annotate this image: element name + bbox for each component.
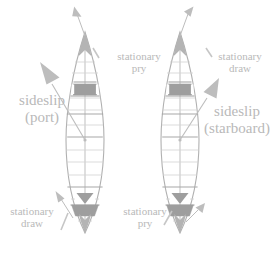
label-right-sideslip-starboard: sideslip (starboard) [198,103,276,137]
right-seat-gap-right [191,85,194,95]
label-left-middle-line2: (port) [8,109,76,126]
label-left-top-line1: stationary [117,50,160,62]
label-left-sideslip-port: sideslip (port) [8,92,76,126]
right-canoe-bow-seat [169,84,192,95]
paddle-slash-left-stern [61,213,68,230]
momentum-arrow-right [180,7,194,37]
label-left-bottom-stationary-draw: stationary draw [2,205,62,230]
label-right-top-line2: draw [207,62,273,74]
label-right-middle-line2: (starboard) [198,120,276,137]
left-canoe-bow-seat [74,84,97,95]
label-right-bottom-line1: stationary [123,205,166,217]
label-right-top-line1: stationary [218,50,261,62]
label-left-middle-line1: sideslip [19,92,65,108]
paddle-slash-left-bow [93,48,99,58]
label-right-bottom-stationary-pry: stationary pry [114,205,176,230]
momentum-arrow-left [72,7,85,37]
left-canoe-stern-seat [72,205,99,216]
left-seat-gap-right [96,85,99,95]
label-left-top-line2: pry [102,62,176,74]
label-right-middle-line1: sideslip [214,103,260,119]
right-seat-gap-left [167,85,170,95]
label-right-bottom-line2: pry [114,217,176,229]
label-left-bottom-line1: stationary [10,205,53,217]
label-right-top-stationary-draw: stationary draw [207,50,273,75]
label-left-top-stationary-pry: stationary pry [102,50,176,75]
diagram-canvas: stationary pry sideslip (port) stationar… [0,0,277,259]
label-left-bottom-line2: draw [2,217,62,229]
